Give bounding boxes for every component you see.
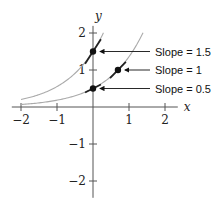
x-tick-label: −2 [12,113,30,127]
point-marker [90,85,96,91]
y-axis-label: y [94,9,102,23]
point-marker [90,48,96,54]
x-axis-label: x [184,100,191,114]
slope-label: Slope = 1 [155,64,202,76]
slope-label: Slope = 1.5 [155,46,211,58]
y-tick-label: −1 [68,137,86,151]
slope-points [85,39,126,92]
y-tick-label: 2 [78,26,86,40]
chart: −2−112−2−112xy Slope = 1.5Slope = 1Slope… [0,0,217,203]
y-tick-label: −2 [68,174,86,188]
slope-label: Slope = 0.5 [155,83,211,95]
point-marker [115,67,121,73]
x-tick-label: 2 [161,113,169,127]
x-tick-label: 1 [125,113,133,127]
x-tick-label: −1 [48,113,66,127]
